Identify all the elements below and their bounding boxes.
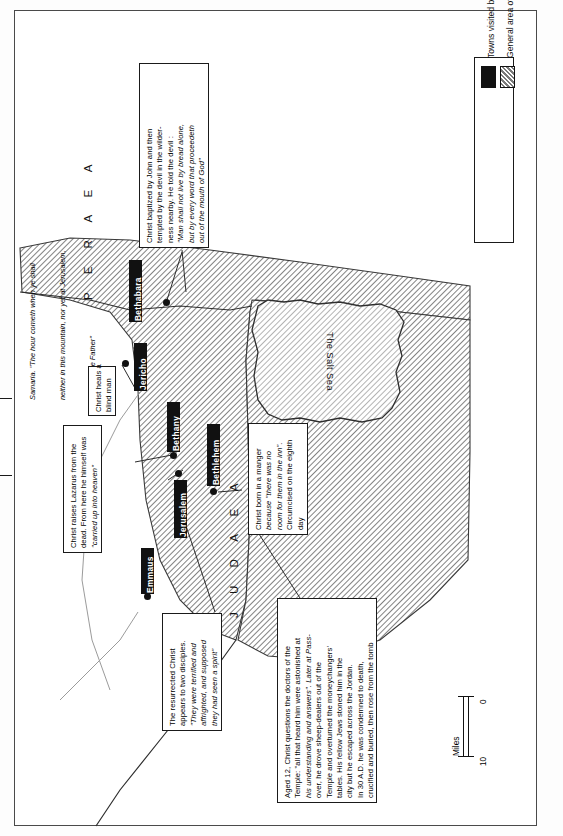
scale-label-min: 0 bbox=[479, 699, 488, 704]
town-dot-emmaus[interactable] bbox=[144, 593, 151, 600]
legend-label-ministry-area: General area of Christ's Ministries bbox=[505, 0, 515, 58]
town-dot-jerusalem[interactable] bbox=[175, 470, 182, 477]
scale-bar-segment bbox=[464, 727, 468, 757]
scale-bar: 0 10 Miles bbox=[449, 688, 491, 784]
inner-shore bbox=[60, 612, 138, 700]
town-label-jerusalem-text: Jerusalem bbox=[178, 493, 188, 537]
callout-resurrection-appearance: The resurrected Christ appears to two di… bbox=[162, 613, 222, 731]
callout-nativity-text: Christ born in a manger because "there w… bbox=[254, 440, 306, 530]
callout-baptism-temptation-text: Christ baptized by John and then tempted… bbox=[145, 124, 207, 243]
town-label-bethlehem[interactable]: Bethlehem bbox=[207, 424, 220, 486]
town-dot-bethabara[interactable] bbox=[163, 299, 170, 306]
town-label-jericho[interactable]: Jericho bbox=[134, 343, 147, 391]
callout-lazarus-ascension-text: Christ raises Lazarus from the dead. Fro… bbox=[69, 437, 100, 548]
callout-resurrection-appearance-text: The resurrected Christ appears to two di… bbox=[168, 640, 220, 726]
scale-tick-max bbox=[458, 756, 474, 757]
map-page: P E R A E A J U D A E A The Salt Sea Sam… bbox=[0, 0, 563, 836]
town-label-emmaus-text: Emmaus bbox=[145, 556, 155, 593]
town-dot-bethany[interactable] bbox=[170, 452, 177, 459]
callout-blind-man-text: Christ heals a blind man bbox=[94, 364, 115, 412]
legend-label-towns-visited: Towns visited by Christ bbox=[486, 0, 496, 58]
callout-nativity: Christ born in a manger because "there w… bbox=[248, 423, 308, 535]
town-dot-jericho[interactable] bbox=[122, 360, 129, 367]
scale-label-max: 10 bbox=[479, 757, 488, 766]
town-label-jericho-text: Jericho bbox=[138, 358, 148, 390]
town-label-bethabara-text: Bethabara bbox=[133, 277, 143, 321]
scale-tick-min bbox=[458, 696, 474, 697]
scale-unit-label: Miles bbox=[451, 736, 461, 756]
town-dot-bethlehem[interactable] bbox=[210, 488, 217, 495]
callout-baptism-temptation: Christ baptized by John and then tempted… bbox=[139, 63, 209, 248]
samaria-note-box bbox=[0, 398, 12, 476]
callout-lazarus-ascension: Christ raises Lazarus from the dead. Fro… bbox=[63, 425, 102, 553]
town-label-jerusalem[interactable]: Jerusalem bbox=[174, 480, 187, 538]
town-label-bethany-text: Bethany bbox=[171, 416, 181, 451]
region-label-judaea: J U D A E A bbox=[228, 476, 240, 618]
legend: Towns visited by Christ General area of … bbox=[474, 57, 514, 243]
town-label-emmaus[interactable]: Emmaus bbox=[141, 548, 154, 594]
callout-temple-passover-crucifixion-text: Aged 12, Christ questions the doctors of… bbox=[283, 634, 377, 798]
callout-temple-passover-crucifixion: Aged 12, Christ questions the doctors of… bbox=[277, 598, 377, 803]
salt-sea-label: The Salt Sea bbox=[325, 332, 336, 391]
legend-swatch-solid bbox=[481, 66, 496, 88]
callout-blind-man: Christ heals a blind man bbox=[88, 366, 116, 416]
town-label-bethany[interactable]: Bethany bbox=[167, 402, 180, 452]
town-label-bethlehem-text: Bethlehem bbox=[211, 439, 221, 485]
map-plate: P E R A E A J U D A E A The Salt Sea Sam… bbox=[0, 0, 563, 836]
town-label-bethabara[interactable]: Bethabara bbox=[129, 260, 142, 322]
scale-bar-graphic bbox=[463, 696, 469, 756]
legend-swatch-hatch bbox=[500, 66, 515, 88]
